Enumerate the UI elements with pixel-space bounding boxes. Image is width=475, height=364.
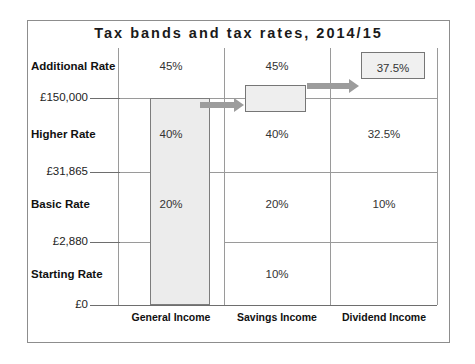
column-caption-general-income: General Income (121, 311, 221, 323)
axis-label-2880: £2,880 (0, 235, 88, 247)
tick-leader-0 (90, 305, 120, 306)
rate-dividend-higher: 32.5% (344, 128, 424, 140)
axis-label-0: £0 (0, 298, 88, 310)
gridline-threshold-2880-left (118, 242, 151, 243)
rate-dividend-basic: 10% (344, 198, 424, 210)
axis-label-150000: £150,000 (0, 91, 88, 103)
rate-savings-additional: 45% (237, 60, 317, 72)
gridline-vertical-general-savings (224, 48, 225, 305)
rate-general-higher: 40% (131, 128, 211, 140)
arrow-general-to-savings-icon (200, 98, 244, 112)
band-label-additional-rate: Additional Rate (31, 60, 123, 72)
tick-leader-2880 (90, 242, 120, 243)
rate-general-basic: 20% (131, 198, 211, 210)
band-label-higher-rate: Higher Rate (31, 128, 123, 140)
band-label-starting-rate: Starting Rate (31, 268, 123, 280)
rate-general-additional: 45% (131, 60, 211, 72)
tick-leader-150000 (90, 98, 120, 99)
arrow-savings-to-dividend-icon (307, 79, 359, 93)
column-caption-savings-income: Savings Income (227, 311, 327, 323)
rate-dividend-additional: 37.5% (361, 58, 425, 79)
gridline-vertical-labels (118, 48, 119, 305)
gridline-baseline-zero (118, 305, 437, 306)
tax-bands-chart: Tax bands and tax rates, 2014/15 £150,00… (0, 0, 475, 364)
rate-savings-higher: 40% (237, 128, 317, 140)
chart-title: Tax bands and tax rates, 2014/15 (27, 25, 450, 41)
rate-savings-starting: 10% (237, 268, 317, 280)
tick-leader-31865 (90, 172, 120, 173)
rate-savings-basic: 20% (237, 198, 317, 210)
savings-threshold-highlight-box (245, 85, 306, 112)
gridline-threshold-2880-right (224, 242, 437, 243)
axis-label-31865: £31,865 (0, 165, 88, 177)
gridline-vertical-right-edge (437, 48, 438, 305)
column-caption-dividend-income: Dividend Income (334, 311, 434, 323)
band-label-basic-rate: Basic Rate (31, 198, 123, 210)
